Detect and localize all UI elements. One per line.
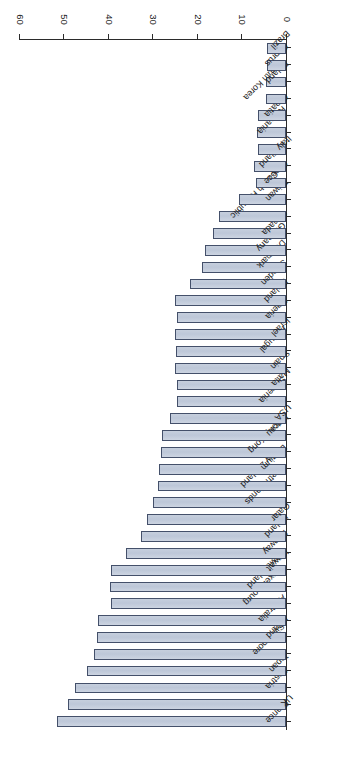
category-tick xyxy=(286,283,291,284)
bar-south-korea xyxy=(266,94,286,105)
bar-row: Norway xyxy=(19,548,286,559)
bar-row: Kuwait xyxy=(19,565,286,576)
bar-row: South Korea xyxy=(19,94,286,105)
bar-row: Greece xyxy=(19,178,286,189)
bar-luxembourg xyxy=(111,598,286,609)
bar-japan xyxy=(87,666,286,677)
bar-row: Croatia xyxy=(19,110,286,121)
bar-kuwait xyxy=(111,565,286,576)
bar-switzerland xyxy=(110,582,286,593)
bar-netherlands xyxy=(153,497,286,508)
category-tick xyxy=(286,216,291,217)
category-tick xyxy=(286,687,291,688)
bar-row: USA xyxy=(19,413,286,424)
bar-ireland xyxy=(97,632,286,643)
bar-france xyxy=(57,716,286,727)
bar-new-zealand xyxy=(158,481,286,492)
category-tick xyxy=(286,317,291,318)
x-tick-label-50: 50 xyxy=(59,14,70,25)
x-tick-label-30: 30 xyxy=(148,14,159,25)
x-tick-label-60: 60 xyxy=(15,14,26,25)
bar-row: Iceland xyxy=(19,531,286,542)
bar-row: Taiwan xyxy=(19,195,286,206)
x-tick-60 xyxy=(19,34,20,40)
category-tick xyxy=(286,435,291,436)
bar-row: Ireland xyxy=(19,632,286,643)
bar-row: Macau xyxy=(19,430,286,441)
bar-usa xyxy=(170,413,286,424)
bar-row: Portugal xyxy=(19,346,286,357)
category-tick xyxy=(286,115,291,116)
chart-figure: FranceUKAustriaJapanSingaporeIrelandAust… xyxy=(0,0,361,765)
x-tick-50 xyxy=(64,34,65,40)
category-tick xyxy=(286,233,291,234)
bar-row: Slovenia xyxy=(19,396,286,407)
x-tick-10 xyxy=(242,34,243,40)
bar-row: Sweden xyxy=(19,279,286,290)
bar-row: Spain xyxy=(19,363,286,374)
category-tick xyxy=(286,586,291,587)
category-tick xyxy=(286,636,291,637)
bar-qatar xyxy=(147,514,286,525)
category-tick xyxy=(286,418,291,419)
category-tick xyxy=(286,384,291,385)
category-tick xyxy=(286,165,291,166)
bar-row: Canada xyxy=(19,228,286,239)
bar-row: Singapore xyxy=(19,649,286,660)
category-tick xyxy=(286,64,291,65)
chart-canvas: FranceUKAustriaJapanSingaporeIrelandAust… xyxy=(0,0,361,765)
bar-row: Belgium xyxy=(19,464,286,475)
bar-row: Italy xyxy=(19,144,286,155)
x-tick-label-0: 0 xyxy=(282,17,293,22)
category-tick xyxy=(286,266,291,267)
category-tick xyxy=(286,334,291,335)
category-tick xyxy=(286,451,291,452)
bar-row: Australia xyxy=(19,615,286,626)
bar-row: New Zealand xyxy=(19,481,286,492)
bar-row: Qatar xyxy=(19,514,286,525)
category-tick xyxy=(286,182,291,183)
value-axis-line xyxy=(20,39,287,40)
bar-row: Luxembourg xyxy=(19,598,286,609)
category-tick xyxy=(286,47,291,48)
category-tick xyxy=(286,367,291,368)
bar-canada xyxy=(213,228,286,239)
x-tick-label-20: 20 xyxy=(193,14,204,25)
bar-austria xyxy=(75,683,286,694)
category-tick xyxy=(286,603,291,604)
bar-row: Malta xyxy=(19,380,286,391)
bar-row: Netherlands xyxy=(19,497,286,508)
bar-row: Denmark xyxy=(19,262,286,273)
bar-row: UK xyxy=(19,699,286,710)
category-tick xyxy=(286,535,291,536)
category-tick xyxy=(286,401,291,402)
category-tick xyxy=(286,519,291,520)
bar-row: Cyprus xyxy=(19,60,286,71)
category-tick xyxy=(286,199,291,200)
category-tick xyxy=(286,620,291,621)
bar-row: Finland xyxy=(19,295,286,306)
category-tick xyxy=(286,485,291,486)
category-tick xyxy=(286,350,291,351)
category-tick xyxy=(286,552,291,553)
category-tick xyxy=(286,468,291,469)
category-tick xyxy=(286,132,291,133)
bar-denmark xyxy=(202,262,286,273)
bar-row: Czech Republic xyxy=(19,211,286,222)
bar-row: Brazil xyxy=(19,43,286,54)
category-tick xyxy=(286,653,291,654)
category-tick xyxy=(286,98,291,99)
bar-hong-kong xyxy=(161,447,286,458)
x-tick-20 xyxy=(197,34,198,40)
bar-row: Israel xyxy=(19,329,286,340)
bar-row: Germany xyxy=(19,245,286,256)
category-tick xyxy=(286,721,291,722)
category-tick xyxy=(286,670,291,671)
x-tick-30 xyxy=(153,34,154,40)
plot-area: FranceUKAustriaJapanSingaporeIrelandAust… xyxy=(20,40,287,730)
x-tick-label-10: 10 xyxy=(237,14,248,25)
bar-row: Thailand xyxy=(19,161,286,172)
category-tick xyxy=(286,249,291,250)
category-tick xyxy=(286,300,291,301)
bar-row: Hong Kong xyxy=(19,447,286,458)
